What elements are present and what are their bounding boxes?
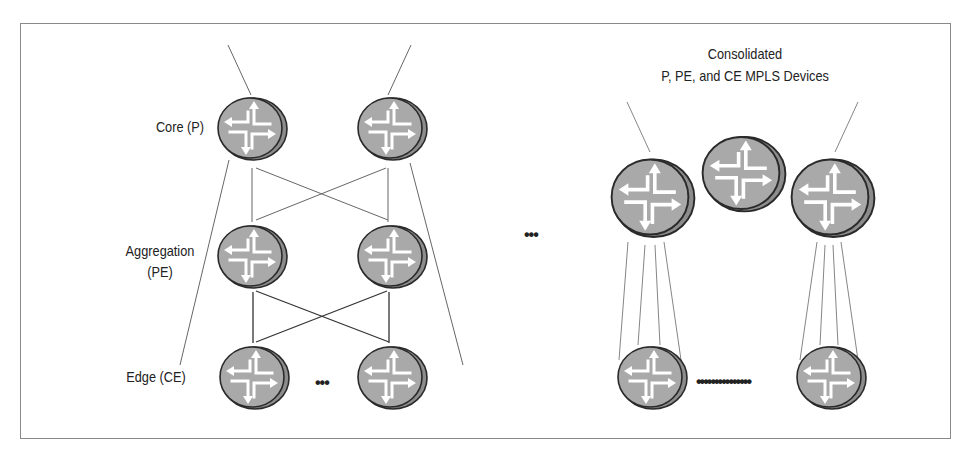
consolidated-router-2-icon (703, 137, 786, 211)
core-label: Core (P) (146, 118, 214, 135)
consolidated-router-1-icon (612, 160, 695, 238)
consolidated-edge-router-1-icon (618, 347, 687, 409)
aggregation-label: Aggregation (109, 242, 211, 259)
consolidated-label: Consolidated (690, 45, 801, 62)
aggregation-sublabel: (PE) (109, 263, 211, 280)
core-router-2-icon (358, 98, 427, 160)
topology-separator-ellipsis: ••• (524, 226, 538, 244)
edge-router-2-icon (358, 347, 427, 409)
edge-right-ellipsis: ••••••••••••••• (696, 373, 750, 391)
aggregation-router-2-icon (358, 226, 427, 288)
consolidated-sublabel: P, PE, and CE MPLS Devices (639, 67, 852, 84)
aggregation-router-1-icon (218, 226, 287, 288)
consolidated-router-3-icon (792, 160, 875, 238)
consolidated-edge-router-2-icon (797, 347, 866, 409)
core-router-1-icon (218, 98, 287, 160)
edge-router-1-icon (220, 347, 289, 409)
edge-left-ellipsis: ••• (315, 374, 329, 392)
edge-label: Edge (CE) (105, 368, 207, 385)
